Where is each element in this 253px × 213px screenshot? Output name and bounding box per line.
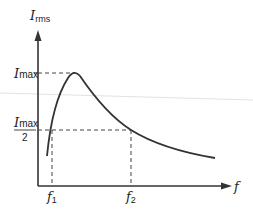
imax-subscript: max	[19, 69, 38, 80]
svg-text:f1: f1	[46, 189, 57, 205]
svg-text:f2: f2	[125, 189, 136, 205]
x-axis-label: f	[233, 179, 241, 194]
y-axis-arrow-icon	[35, 30, 42, 41]
svg-text:Irms: Irms	[29, 8, 51, 24]
f2-subscript: 2	[131, 195, 136, 205]
f1-subscript: 1	[52, 195, 57, 205]
half-max-numerator-subscript: max	[19, 118, 38, 129]
x-axis-arrow-icon	[221, 183, 232, 190]
svg-text:Imax: Imax	[13, 115, 38, 130]
y-axis-subscript: rms	[35, 14, 50, 24]
half-max-denominator: 2	[22, 132, 28, 143]
resonance-diagram: Irms Imax Imax 2 f1 f2 f	[0, 0, 253, 213]
